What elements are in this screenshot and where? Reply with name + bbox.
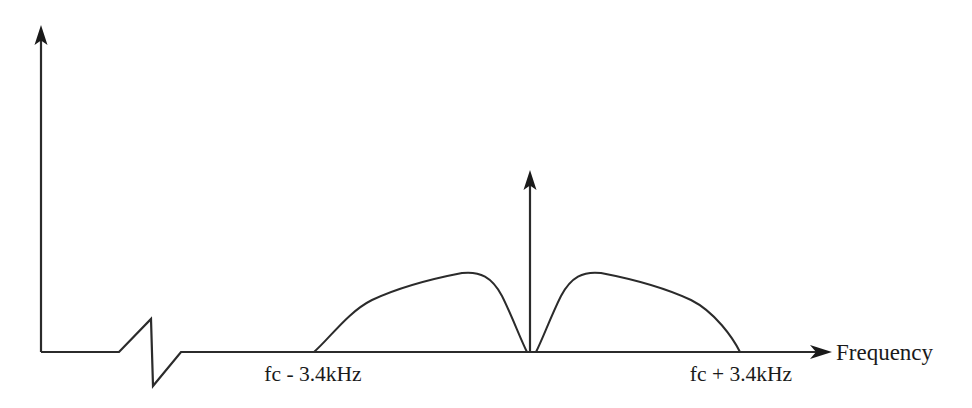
tick-label-upper-sideband-edge: fc + 3.4kHz — [690, 362, 792, 386]
x-axis-title: Frequency — [836, 340, 934, 365]
tick-label-lower-sideband-edge: fc - 3.4kHz — [264, 362, 361, 386]
lower-sideband-lobe-curve — [314, 273, 527, 352]
spectrum-plot: fc - 3.4kHz fc + 3.4kHz Frequency — [0, 0, 972, 408]
upper-sideband-lobe-curve — [536, 273, 740, 352]
spectrum-figure: fc - 3.4kHz fc + 3.4kHz Frequency — [0, 0, 972, 408]
